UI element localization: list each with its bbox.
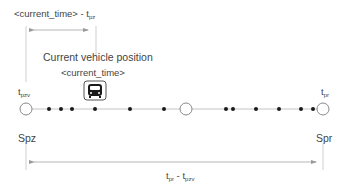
bus-icon[interactable] [84, 81, 106, 100]
route-point-dot [277, 107, 281, 111]
route-point-dot [231, 107, 235, 111]
route-point-dot [254, 107, 258, 111]
bottom-label-b-sub: pzv [185, 176, 194, 182]
stop-circle-end[interactable] [317, 103, 329, 115]
route-point-dot [299, 107, 303, 111]
top-interval-label-main: <current_time> - t [14, 8, 89, 19]
stop-circle-start[interactable] [20, 103, 32, 115]
end-time-sub: pr [324, 92, 329, 98]
stop-circle-middle[interactable] [180, 103, 192, 115]
route-point-dot [59, 107, 63, 111]
start-stop-name: Spz [18, 132, 36, 144]
route-point-dot [70, 107, 74, 111]
end-stop-time-label: tpr [321, 87, 329, 98]
route-point-dot [128, 107, 132, 111]
bottom-interval-label: tpr - tpzv [166, 171, 194, 182]
route-point-dot [93, 107, 97, 111]
start-stop-time-label: tpzv [18, 87, 30, 98]
route-point-dot [162, 107, 166, 111]
route-point-dot [47, 107, 51, 111]
route-point-dot [224, 107, 228, 111]
start-time-sub: pzv [21, 92, 30, 98]
route-point-dot [311, 107, 315, 111]
current-time-label: <current_time> [61, 68, 125, 78]
top-interval-label-sub: pz [89, 14, 95, 20]
end-stop-name: Spr [316, 132, 332, 144]
top-interval-label: <current_time> - tpz [14, 9, 95, 20]
route-diagram [0, 0, 346, 188]
current-vehicle-position-label: Current vehicle position [43, 51, 153, 63]
